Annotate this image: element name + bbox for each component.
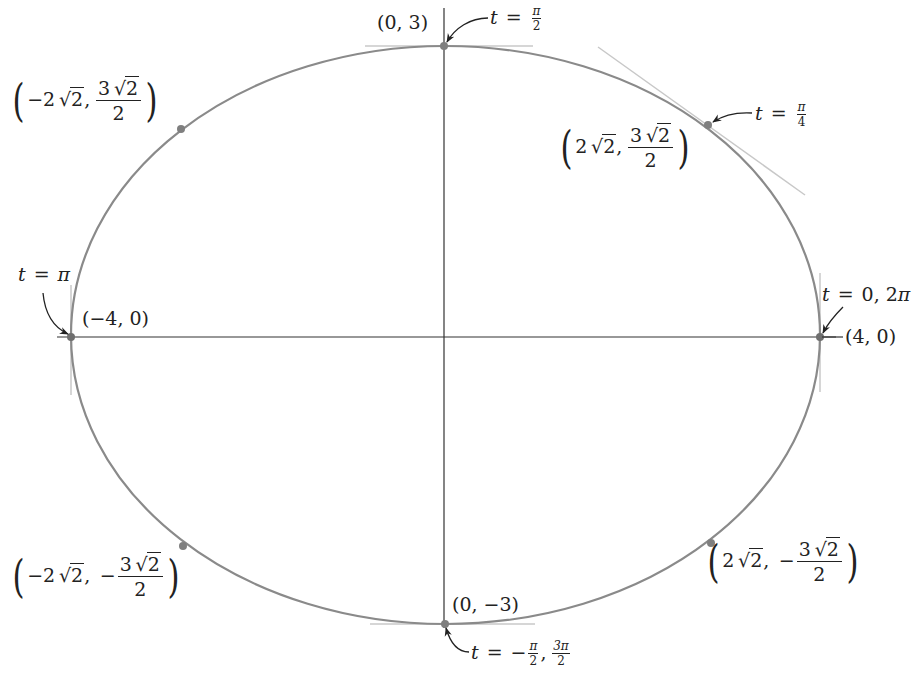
equals-sign: =	[771, 102, 787, 124]
point-q3	[179, 542, 187, 550]
label-q1-t: t=π4	[755, 101, 808, 128]
label-q3-point: (−2 √2, −3 √22)	[10, 555, 182, 599]
equals-sign: =	[506, 6, 522, 28]
point-left	[67, 333, 75, 341]
point-bottom	[441, 620, 449, 628]
fraction: 3π2	[552, 640, 570, 667]
label-right-point: (4, 0)	[845, 327, 896, 346]
fraction: π2	[532, 5, 542, 32]
point-q2	[177, 125, 185, 133]
sqrt: √2	[738, 551, 763, 570]
fraction: 3 √22	[628, 126, 673, 170]
label-left-point: (−4, 0)	[82, 309, 149, 328]
fraction: π4	[797, 101, 807, 128]
label-q4-point: (2 √2, −3 √22)	[705, 540, 861, 584]
arrow-bottom	[446, 628, 469, 652]
parametric-ellipse-figure: (0, 3) t=π2 t=π4 (2 √2, 3 √22) (−2 √2, 3…	[0, 0, 919, 678]
sqrt: √2	[59, 566, 84, 585]
fraction: 3 √22	[118, 555, 163, 599]
t-variable: t	[755, 102, 763, 124]
sqrt: √2	[591, 137, 616, 156]
label-top-t: t=π2	[490, 5, 543, 32]
label-right-t: t=0, 2π	[822, 285, 910, 304]
sqrt: √2	[59, 90, 84, 109]
point-q1	[704, 121, 712, 129]
arrow-right	[823, 307, 843, 333]
arrow-top	[447, 18, 488, 42]
label-top-point: (0, 3)	[377, 13, 428, 32]
arrow-left	[43, 293, 68, 334]
fraction: π2	[528, 640, 538, 667]
fraction: 3 √22	[797, 540, 842, 584]
label-bottom-t: t=−π2, 3π2	[471, 640, 572, 667]
label-q1-point: (2 √2, 3 √22)	[558, 126, 692, 170]
label-q2-point: (−2 √2, 3 √22)	[10, 79, 160, 123]
fraction: 3 √22	[96, 79, 141, 123]
point-top	[440, 42, 448, 50]
label-left-t: t=π	[18, 265, 70, 284]
t-variable: t	[490, 6, 498, 28]
label-bottom-point: (0, −3)	[452, 595, 519, 614]
arrow-q1	[713, 113, 752, 122]
